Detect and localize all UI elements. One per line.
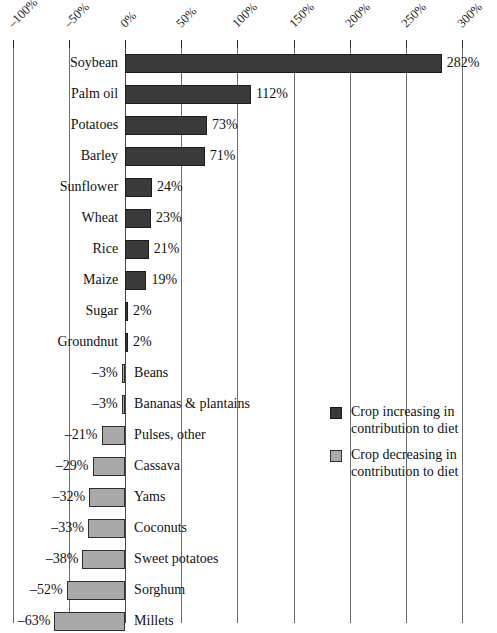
bar-value-label: –33% bbox=[0, 518, 84, 537]
x-axis-tick-mark bbox=[350, 40, 351, 48]
bar-sugar bbox=[125, 302, 128, 321]
bar-row: 21%Rice bbox=[0, 234, 497, 265]
bar-row: 282%Soybean bbox=[0, 48, 497, 79]
x-axis-tick-mark bbox=[125, 40, 126, 48]
bar-value-label: 19% bbox=[151, 270, 177, 289]
category-label: Yams bbox=[134, 487, 165, 506]
bar-row: 23%Wheat bbox=[0, 203, 497, 234]
bar-row: –52%Sorghum bbox=[0, 575, 497, 606]
x-axis-tick-label: 100% bbox=[230, 0, 261, 31]
bar-chart: –100%–50%0%50%100%150%200%250%300% 282%S… bbox=[0, 0, 497, 633]
bar-pulses-other bbox=[102, 426, 126, 445]
bar-row: –3%Beans bbox=[0, 358, 497, 389]
bar-beans bbox=[122, 364, 125, 383]
bar-row: 112%Palm oil bbox=[0, 79, 497, 110]
bar-sweet-potatoes bbox=[82, 550, 125, 569]
bar-cassava bbox=[93, 457, 126, 476]
bar-value-label: 23% bbox=[156, 208, 182, 227]
bar-row: 2%Sugar bbox=[0, 296, 497, 327]
bar-row: 73%Potatoes bbox=[0, 110, 497, 141]
category-label: Sugar bbox=[0, 301, 118, 320]
x-axis-tick-label: –50% bbox=[61, 0, 92, 31]
x-axis-tick-mark bbox=[462, 40, 463, 48]
category-label: Wheat bbox=[0, 208, 118, 227]
category-label: Coconuts bbox=[134, 518, 187, 537]
bar-value-label: –3% bbox=[0, 363, 118, 382]
bar-value-label: 282% bbox=[447, 53, 480, 72]
x-axis-tick-mark bbox=[237, 40, 238, 48]
bar-value-label: 2% bbox=[133, 332, 152, 351]
category-label: Sunflower bbox=[0, 177, 118, 196]
x-axis-tick-mark bbox=[13, 40, 14, 48]
bar-row: –38%Sweet potatoes bbox=[0, 544, 497, 575]
bar-potatoes bbox=[125, 116, 207, 135]
bar-value-label: –3% bbox=[0, 394, 118, 413]
legend-label-increasing: Crop increasing in contribution to diet bbox=[351, 404, 490, 437]
bar-sunflower bbox=[125, 178, 152, 197]
bar-row: 19%Maize bbox=[0, 265, 497, 296]
bar-value-label: –29% bbox=[0, 456, 89, 475]
bar-bananas-plantains bbox=[122, 395, 125, 414]
category-label: Maize bbox=[0, 270, 118, 289]
bar-value-label: 21% bbox=[154, 239, 180, 258]
bar-row: –33%Coconuts bbox=[0, 513, 497, 544]
category-label: Cassava bbox=[134, 456, 180, 475]
bar-row: –63%Millets bbox=[0, 606, 497, 633]
category-label: Bananas & plantains bbox=[134, 394, 250, 413]
bar-value-label: –52% bbox=[0, 580, 63, 599]
legend-item: Crop increasing in contribution to diet bbox=[330, 404, 490, 438]
x-axis-tick-label: 250% bbox=[398, 0, 429, 31]
x-axis-tick-label: 0% bbox=[117, 9, 139, 31]
category-label: Beans bbox=[134, 363, 168, 382]
bar-groundnut bbox=[125, 333, 128, 352]
bar-sorghum bbox=[67, 581, 125, 600]
bar-row: 2%Groundnut bbox=[0, 327, 497, 358]
category-label: Sweet potatoes bbox=[134, 549, 218, 568]
legend-swatch-increasing-icon bbox=[330, 407, 342, 419]
bar-value-label: 2% bbox=[133, 301, 152, 320]
bar-wheat bbox=[125, 209, 151, 228]
x-axis-tick-mark bbox=[69, 40, 70, 48]
category-label: Pulses, other bbox=[134, 425, 206, 444]
bar-value-label: 24% bbox=[157, 177, 183, 196]
category-label: Palm oil bbox=[0, 84, 118, 103]
legend-item: Crop decreasing in contribution to diet bbox=[330, 447, 490, 481]
bar-value-label: 73% bbox=[212, 115, 238, 134]
legend-swatch-decreasing-icon bbox=[330, 450, 342, 462]
legend-label-decreasing: Crop decreasing in contribution to diet bbox=[351, 447, 490, 480]
category-label: Rice bbox=[0, 239, 118, 258]
x-axis-tick-mark bbox=[181, 40, 182, 48]
x-axis-tick-label: 200% bbox=[342, 0, 373, 31]
bar-yams bbox=[89, 488, 125, 507]
legend: Crop increasing in contribution to diet … bbox=[330, 404, 490, 490]
x-axis-tick-label: 150% bbox=[286, 0, 317, 31]
bar-coconuts bbox=[88, 519, 125, 538]
bar-soybean bbox=[125, 54, 442, 73]
x-axis-tick-label: 50% bbox=[174, 4, 201, 31]
x-axis-tick-label: –100% bbox=[5, 0, 41, 31]
category-label: Millets bbox=[134, 611, 174, 630]
bar-value-label: 71% bbox=[210, 146, 236, 165]
x-axis-tick-label: 300% bbox=[454, 0, 485, 31]
bar-row: 24%Sunflower bbox=[0, 172, 497, 203]
category-label: Barley bbox=[0, 146, 118, 165]
category-label: Potatoes bbox=[0, 115, 118, 134]
bar-barley bbox=[125, 147, 205, 166]
bar-value-label: 112% bbox=[256, 84, 288, 103]
category-label: Sorghum bbox=[134, 580, 185, 599]
x-axis-tick-mark bbox=[406, 40, 407, 48]
bar-palm-oil bbox=[125, 85, 251, 104]
bar-millets bbox=[54, 612, 125, 631]
bar-value-label: –32% bbox=[0, 487, 85, 506]
bar-row: 71%Barley bbox=[0, 141, 497, 172]
bar-maize bbox=[125, 271, 146, 290]
bar-value-label: –21% bbox=[0, 425, 98, 444]
bar-value-label: –38% bbox=[0, 549, 78, 568]
category-label: Soybean bbox=[0, 53, 118, 72]
x-axis-tick-mark bbox=[294, 40, 295, 48]
category-label: Groundnut bbox=[0, 332, 118, 351]
bar-rice bbox=[125, 240, 149, 259]
bar-value-label: –63% bbox=[0, 611, 50, 630]
